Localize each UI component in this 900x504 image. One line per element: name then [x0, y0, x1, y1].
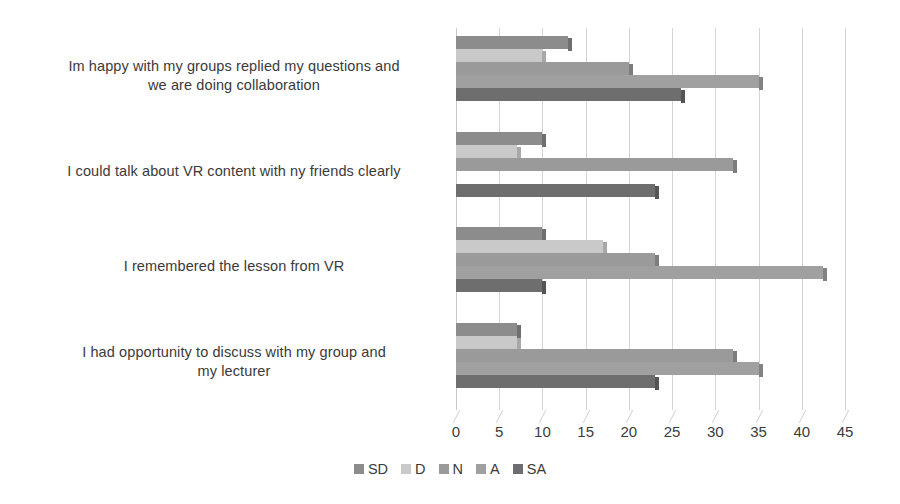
bar-n [456, 349, 845, 362]
bar-d [456, 49, 845, 62]
legend-swatch-icon [439, 464, 449, 474]
bar-n [456, 158, 845, 171]
bar-group [456, 315, 845, 411]
legend-item-d[interactable]: D [401, 462, 425, 477]
bar-d [456, 336, 845, 349]
legend-swatch-icon [476, 464, 486, 474]
category-label: I had opportunity to discuss with my gro… [30, 343, 448, 381]
category-axis-labels: Im happy with my groups replied my quest… [30, 28, 448, 410]
legend-swatch-icon [401, 464, 411, 474]
plot-area [456, 28, 845, 410]
bar-sd [456, 323, 845, 336]
bar-sd [456, 132, 845, 145]
legend-label: N [453, 462, 463, 477]
bar-a [456, 75, 845, 88]
axis-tick [582, 410, 601, 423]
axis-tick [453, 410, 472, 423]
bar-a [456, 266, 845, 279]
axis-tick-label: 40 [793, 423, 810, 440]
bar-chart: Im happy with my groups replied my quest… [0, 0, 900, 504]
axis-tick-label: 0 [452, 423, 460, 440]
bar-sd [456, 227, 845, 240]
axis-tick-label: 15 [577, 423, 594, 440]
axis-tick-label: 10 [534, 423, 551, 440]
axis-tick-label: 20 [621, 423, 638, 440]
axis-tick [626, 410, 645, 423]
axis-tick-label: 5 [495, 423, 503, 440]
axis-tick [496, 410, 515, 423]
bar-group [456, 28, 845, 124]
legend-item-sd[interactable]: SD [354, 462, 388, 477]
legend-item-sa[interactable]: SA [513, 462, 546, 477]
bar-group [456, 219, 845, 315]
bar-sa [456, 375, 845, 388]
legend-item-n[interactable]: N [439, 462, 463, 477]
axis-tick-label: 25 [664, 423, 681, 440]
category-label: I remembered the lesson from VR [30, 257, 448, 276]
legend-label: SA [527, 462, 546, 477]
bar-sd [456, 36, 845, 49]
legend-item-a[interactable]: A [476, 462, 500, 477]
value-axis: 051015202530354045 [456, 410, 856, 450]
bar-n [456, 253, 845, 266]
bar-n [456, 62, 845, 75]
legend-swatch-icon [354, 464, 364, 474]
bar-a [456, 362, 845, 375]
axis-tick [539, 410, 558, 423]
bar-group [456, 124, 845, 220]
category-label: I could talk about VR content with ny fr… [30, 162, 448, 181]
axis-tick-label: 35 [750, 423, 767, 440]
axis-tick [755, 410, 774, 423]
chart-legend: SDDNASA [0, 462, 900, 477]
bar-sa [456, 88, 845, 101]
bar-sa [456, 184, 845, 197]
category-label: Im happy with my groups replied my quest… [30, 57, 448, 95]
axis-tick [669, 410, 688, 423]
legend-swatch-icon [513, 464, 523, 474]
legend-label: A [490, 462, 500, 477]
bar-d [456, 145, 845, 158]
bar-d [456, 240, 845, 253]
axis-tick [712, 410, 731, 423]
axis-tick [798, 410, 817, 423]
gridline-45 [845, 28, 846, 410]
axis-tick [842, 410, 861, 423]
axis-tick-label: 30 [707, 423, 724, 440]
axis-tick-label: 45 [837, 423, 854, 440]
legend-label: D [415, 462, 425, 477]
legend-label: SD [368, 462, 388, 477]
bar-a [456, 171, 845, 184]
bar-sa [456, 279, 845, 292]
